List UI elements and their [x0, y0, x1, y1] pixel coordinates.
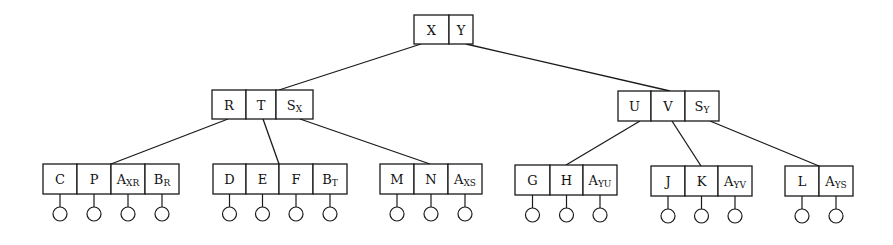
leaf-circle-icon	[795, 209, 809, 223]
node-cell: L	[785, 166, 819, 223]
leaf-circle-icon	[323, 207, 337, 221]
cell-subscript: XR	[126, 178, 139, 188]
node-cell: G	[515, 165, 550, 222]
node-leaf-3: MNAXS	[380, 164, 482, 221]
node-cell: BT	[313, 164, 347, 221]
leaf-circle-icon	[695, 209, 709, 223]
node-leaf-2: DEFBT	[213, 164, 347, 221]
node-cell: P	[77, 164, 111, 221]
cell-label: T	[257, 98, 266, 113]
edge-right-internal-to-leaf-6	[710, 121, 819, 166]
b-tree-diagram: XYRTSXUVSYCPAXRBRDEFBTMNAXSGHAYUJKAYVLAY…	[0, 0, 893, 245]
cell-label: H	[561, 173, 572, 188]
node-cell: F	[279, 164, 313, 221]
cell-subscript: YU	[597, 179, 612, 189]
edge-right-internal-to-leaf-4	[566, 121, 640, 165]
leaf-circle-icon	[829, 209, 843, 223]
cell-label: M	[390, 172, 403, 187]
cell-subscript: X	[296, 104, 303, 114]
node-cell: AYU	[583, 165, 617, 222]
tree-nodes: XYRTSXUVSYCPAXRBRDEFBTMNAXSGHAYUJKAYVLAY…	[43, 15, 853, 223]
node-cell: V	[651, 91, 685, 121]
cell-label: U	[629, 99, 640, 114]
node-cell: BR	[145, 164, 179, 221]
edge-left-internal-to-leaf-2	[263, 119, 279, 164]
node-cell: D	[213, 164, 246, 221]
edge-left-internal-to-leaf-3	[300, 119, 430, 164]
leaf-circle-icon	[87, 207, 101, 221]
node-cell: T	[246, 90, 276, 119]
node-left-internal: RTSX	[212, 90, 313, 119]
leaf-circle-icon	[223, 207, 237, 221]
node-right-internal: UVSY	[618, 91, 719, 121]
node-cell: R	[212, 90, 246, 119]
leaf-circle-icon	[593, 208, 607, 222]
node-cell: AXS	[448, 164, 482, 221]
node-leaf-1: CPAXRBR	[43, 164, 179, 221]
node-cell: K	[685, 166, 718, 223]
cell-label: N	[425, 172, 436, 187]
cell-label: K	[697, 174, 707, 189]
leaf-circle-icon	[424, 207, 438, 221]
cell-label: L	[798, 174, 807, 189]
cell-subscript: Y	[702, 105, 710, 115]
node-cell: SX	[276, 90, 313, 119]
node-cell: AYS	[819, 166, 853, 223]
node-cell: Y	[449, 15, 473, 44]
node-leaf-6: LAYS	[785, 166, 853, 223]
edge-left-internal-to-leaf-1	[111, 119, 228, 164]
leaf-circle-icon	[458, 207, 472, 221]
edge-right-internal-to-leaf-5	[672, 121, 701, 166]
cell-label: P	[90, 172, 99, 187]
node-leaf-5: JKAYV	[651, 166, 752, 223]
leaf-circle-icon	[289, 207, 303, 221]
leaf-circle-icon	[256, 207, 270, 221]
node-cell: AYV	[718, 166, 752, 223]
cell-label: E	[258, 172, 268, 187]
leaf-circle-icon	[560, 208, 574, 222]
node-cell: J	[651, 166, 685, 223]
cell-label: G	[527, 173, 537, 188]
node-cell: AXR	[111, 164, 145, 221]
cell-subscript: YV	[732, 180, 746, 190]
cell-subscript: YS	[834, 180, 847, 190]
cell-label: V	[662, 99, 673, 114]
node-cell: H	[550, 165, 583, 222]
node-cell: E	[246, 164, 279, 221]
node-cell: U	[618, 91, 651, 121]
cell-subscript: XS	[463, 178, 476, 188]
leaf-circle-icon	[155, 207, 169, 221]
leaf-circle-icon	[661, 209, 675, 223]
node-cell: N	[414, 164, 448, 221]
node-cell: SY	[685, 91, 719, 121]
cell-label: J	[663, 174, 670, 189]
leaf-circle-icon	[53, 207, 67, 221]
cell-label: X	[427, 23, 437, 38]
cell-label: Y	[456, 23, 466, 38]
cell-subscript: R	[163, 178, 170, 188]
edge-root-to-left-internal	[279, 44, 421, 90]
cell-subscript: T	[332, 178, 338, 188]
node-cell: X	[414, 15, 449, 44]
leaf-circle-icon	[121, 207, 135, 221]
leaf-circle-icon	[526, 208, 540, 222]
node-cell: M	[380, 164, 414, 221]
cell-label: D	[224, 172, 234, 187]
leaf-circle-icon	[390, 207, 404, 221]
edge-root-to-right-internal	[466, 44, 670, 91]
node-leaf-4: GHAYU	[515, 165, 617, 222]
cell-label: R	[224, 98, 235, 113]
leaf-circle-icon	[728, 209, 742, 223]
node-cell: C	[43, 164, 77, 221]
cell-label: F	[291, 172, 300, 187]
node-root: XY	[414, 15, 473, 44]
cell-label: C	[55, 172, 65, 187]
